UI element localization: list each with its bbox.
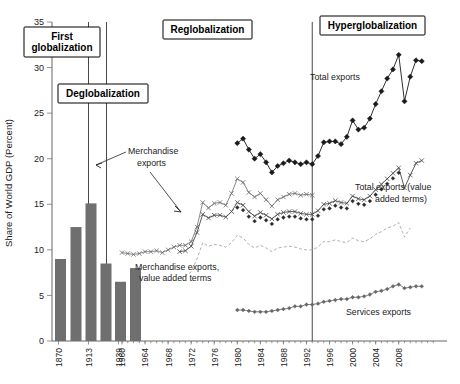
globalization-share-of-world-gdp-chart: 05101520253035 1870191319391960196419681…: [0, 0, 460, 384]
x-tick-label: 1960: [117, 348, 127, 367]
era-deglobalization-label: Deglobalization: [66, 88, 140, 99]
x-tick-label: 1980: [233, 348, 243, 367]
y-tick-label: 0: [39, 336, 44, 346]
annotation-merchandise-va-line1: Merchandise exports,: [135, 262, 219, 272]
bar-1929: [101, 264, 112, 341]
annotation-merchandise-exports-line1: Merchandise: [128, 146, 178, 156]
era-hyperglobalization: Hyperglobalization: [320, 16, 425, 35]
x-tick-label: 1996: [325, 348, 335, 367]
x-tick-label: 1968: [164, 348, 174, 367]
y-tick-label: 15: [34, 199, 44, 209]
annotation-total-exports-va-line1: Total exports (value: [355, 182, 431, 192]
era-hyperglobalization-label: Hyperglobalization: [328, 20, 417, 31]
chart-figure: 05101520253035 1870191319391960196419681…: [0, 0, 460, 384]
x-tick-label: 1913: [84, 348, 94, 367]
era-reglobalization: Reglobalization: [163, 20, 252, 39]
x-tick-label: 1976: [210, 348, 220, 367]
y-axis-title: Share of World GDP (Percent): [3, 119, 14, 247]
x-tick-label: 2008: [394, 348, 404, 367]
bar-1870: [55, 259, 66, 341]
x-tick-label: 1972: [187, 348, 197, 367]
y-tick-label: 30: [34, 63, 44, 73]
annotation-merchandise-exports-line2: exports: [137, 158, 166, 168]
x-tick-label: 1988: [279, 348, 289, 367]
x-tick-label: 2000: [348, 348, 358, 367]
bar-1939: [115, 282, 126, 341]
bar-1913: [86, 203, 97, 341]
annotation-merchandise-va-line2: value added terms: [139, 273, 212, 283]
bar-1890: [71, 227, 82, 341]
y-tick-label: 20: [34, 154, 44, 164]
x-tick-label: 1992: [302, 348, 312, 367]
era-deglobalization: Deglobalization: [58, 84, 148, 103]
era-first-globalization: Firstglobalization: [24, 27, 100, 57]
era-first-globalization-label: globalization: [31, 42, 92, 53]
annotation-services-exports: Services exports: [346, 307, 412, 317]
era-first-globalization-label: First: [51, 31, 73, 42]
annotation-total-exports: Total exports: [310, 72, 360, 82]
x-tick-label: 1984: [256, 348, 266, 367]
y-tick-label: 5: [39, 291, 44, 301]
annotation-total-exports-va-line2: added terms): [375, 194, 427, 204]
x-tick-label: 2004: [371, 348, 381, 367]
era-reglobalization-label: Reglobalization: [171, 24, 245, 35]
y-tick-label: 25: [34, 108, 44, 118]
y-tick-label: 35: [34, 17, 44, 27]
x-tick-label: 1870: [54, 348, 64, 367]
x-tick-label: 1964: [140, 348, 150, 367]
y-tick-label: 10: [34, 245, 44, 255]
